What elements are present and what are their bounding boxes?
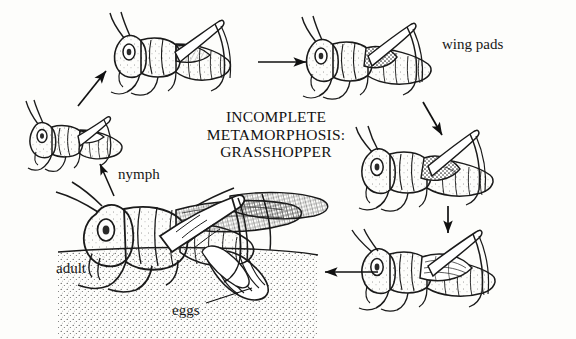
arrow-eggs-to-nymph1 (78, 71, 106, 106)
stage-nymph-instar-3 (302, 16, 431, 99)
title-line-2: METAMORPHOSIS: (196, 126, 356, 144)
grasshopper-metamorphosis-figure: INCOMPLETE METAMORPHOSIS: GRASSHOPPER wi… (0, 0, 576, 339)
stage-nymph-instar-2 (110, 12, 231, 95)
stage-nymph-instar-1 (26, 100, 122, 171)
stage-nymph-instar-4 (356, 126, 493, 211)
leader-nymph (100, 164, 114, 196)
label-adult: adult (56, 260, 86, 277)
title-line-3: GRASSHOPPER (196, 143, 356, 161)
title-line-1: INCOMPLETE (196, 108, 356, 126)
label-nymph: nymph (118, 166, 160, 183)
figure-title: INCOMPLETE METAMORPHOSIS: GRASSHOPPER (196, 108, 356, 161)
label-wing-pads: wing pads (442, 36, 503, 53)
arrow-nymph3-to-nymph4 (423, 102, 442, 135)
label-eggs: eggs (172, 302, 200, 319)
stage-nymph-instar-5 (352, 229, 495, 311)
